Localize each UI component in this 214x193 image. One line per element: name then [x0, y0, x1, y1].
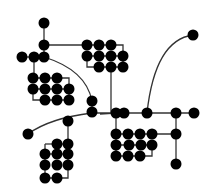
node-g2_b3 [52, 84, 63, 95]
node-g2_b2 [40, 84, 51, 95]
node-g3_a2 [52, 139, 63, 150]
node-n_r2 [171, 159, 182, 170]
node-n_l3 [39, 52, 50, 63]
node-g4_b2 [124, 140, 135, 151]
node-g4_a4 [147, 129, 158, 140]
node-g3_d2 [52, 173, 63, 184]
node-g1_a3 [106, 40, 117, 51]
node-g4_c1 [111, 151, 122, 162]
node-n_m1 [87, 96, 98, 107]
diagram-canvas [0, 0, 214, 193]
edge [87, 56, 123, 67]
node-n_tr [188, 30, 199, 41]
node-n_top [39, 18, 50, 29]
node-g3_b2 [52, 149, 63, 160]
node-g3_c1 [40, 160, 51, 171]
node-g4_b3 [136, 140, 147, 151]
node-g2_c3 [52, 95, 63, 106]
node-g4_a1 [111, 129, 122, 140]
node-g4_c3 [135, 151, 146, 162]
node-n_bl [23, 129, 34, 140]
node-g4_c2 [123, 151, 134, 162]
node-h2 [119, 108, 130, 119]
node-h5 [189, 108, 200, 119]
node-n_l2 [29, 52, 40, 63]
node-h4 [171, 108, 182, 119]
node-g2_b4 [64, 84, 75, 95]
node-g3_a3 [63, 139, 74, 150]
node-n_m2 [87, 107, 98, 118]
node-g1_b4 [118, 51, 129, 62]
node-g3_d1 [40, 173, 51, 184]
node-g1_b3 [106, 51, 117, 62]
node-n_bm [63, 116, 74, 127]
node-g2_a3 [52, 73, 63, 84]
node-g1_c4 [118, 62, 129, 73]
edge [147, 35, 193, 113]
node-n_r1 [171, 129, 182, 140]
node-g3_c2 [52, 160, 63, 171]
node-g1_c3 [106, 62, 117, 73]
node-g2_a2 [40, 73, 51, 84]
node-g3_b3 [63, 149, 74, 160]
nodes-layer [17, 18, 200, 184]
node-g2_c4 [64, 95, 75, 106]
node-n_l1 [17, 52, 28, 63]
node-g1_a1 [82, 40, 93, 51]
node-g3_b1 [40, 149, 51, 160]
node-g1_c2 [94, 62, 105, 73]
node-g4_b4 [147, 140, 158, 151]
node-g1_a2 [94, 40, 105, 51]
node-g4_a3 [135, 129, 146, 140]
node-g2_b1 [28, 84, 39, 95]
node-g2_c2 [40, 95, 51, 106]
node-g2_a1 [28, 73, 39, 84]
network-diagram [0, 0, 214, 193]
node-h3 [142, 108, 153, 119]
node-n_j1 [39, 40, 50, 51]
node-g4_b1 [111, 140, 122, 151]
node-g1_b1 [82, 51, 93, 62]
node-g1_b2 [94, 51, 105, 62]
edge [33, 89, 69, 100]
node-g4_a2 [123, 129, 134, 140]
node-g3_c3 [63, 160, 74, 171]
